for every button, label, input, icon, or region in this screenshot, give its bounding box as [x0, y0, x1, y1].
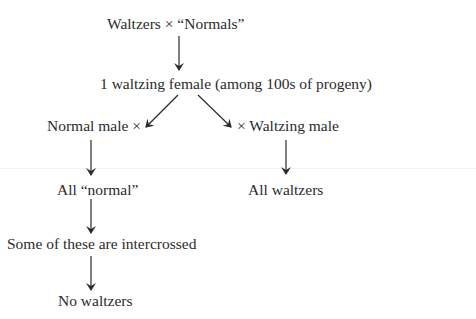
parental-cross-label: Waltzers × “Normals” — [107, 15, 244, 33]
arrow-layer — [0, 0, 476, 319]
right-result-label: All waltzers — [248, 181, 323, 199]
f1-result-label: 1 waltzing female (among 100s of progeny… — [100, 75, 372, 93]
diagonal-arrow-right-icon — [198, 95, 231, 127]
left-result-label: All “normal” — [57, 181, 138, 199]
diagonal-arrow-left-icon — [146, 95, 178, 127]
cross-left-label: Normal male × — [47, 117, 141, 135]
cross-right-label: × Waltzing male — [237, 117, 339, 135]
final-result-label: No waltzers — [58, 292, 132, 310]
intercross-label: Some of these are intercrossed — [7, 235, 196, 253]
